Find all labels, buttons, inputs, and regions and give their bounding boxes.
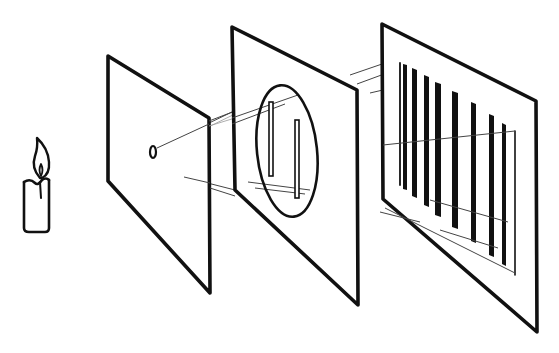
detection-screen — [380, 24, 537, 332]
candle-icon — [24, 138, 49, 232]
double-slit-diagram — [0, 0, 559, 353]
single-slit-screen — [108, 56, 210, 293]
slit-2 — [295, 120, 299, 198]
slit-1 — [269, 102, 273, 176]
double-slit-screen — [232, 27, 358, 305]
